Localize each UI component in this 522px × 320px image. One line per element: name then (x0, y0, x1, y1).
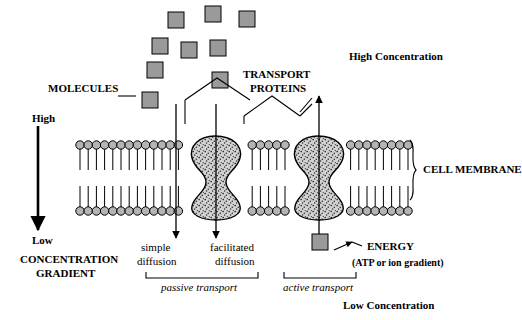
label-simple-diffusion-line2: diffusion (137, 255, 177, 267)
label-gradient-high: High (32, 112, 55, 124)
label-active-transport: active transport (283, 281, 353, 293)
label-facilitated-diffusion-line1: facilitated (210, 241, 254, 253)
label-energy: ENERGY (367, 240, 414, 252)
label-gradient-caption-line2: GRADIENT (36, 267, 95, 279)
label-transport-proteins-line1: TRANSPORT (243, 68, 310, 80)
label-simple-diffusion-line1: simple (141, 241, 170, 253)
transport-brackets (146, 272, 356, 278)
label-gradient-low: Low (32, 234, 53, 246)
label-energy-sub: (ATP or ion gradient) (352, 257, 444, 268)
label-gradient-caption-line1: CONCENTRATION (20, 253, 118, 265)
label-low-concentration: Low Concentration (343, 299, 434, 311)
label-passive-transport: passive transport (161, 281, 237, 293)
label-transport-proteins-line2: PROTEINS (250, 82, 306, 94)
label-facilitated-diffusion-line2: diffusion (215, 255, 255, 267)
energy-indicator (312, 234, 362, 250)
cell-membrane (76, 141, 412, 215)
membrane-brace (410, 140, 416, 200)
label-molecules: MOLECULES (48, 82, 118, 94)
label-cell-membrane: CELL MEMBRANE (423, 163, 522, 175)
label-high-concentration: High Concentration (349, 50, 443, 62)
molecule-cloud (142, 6, 255, 108)
